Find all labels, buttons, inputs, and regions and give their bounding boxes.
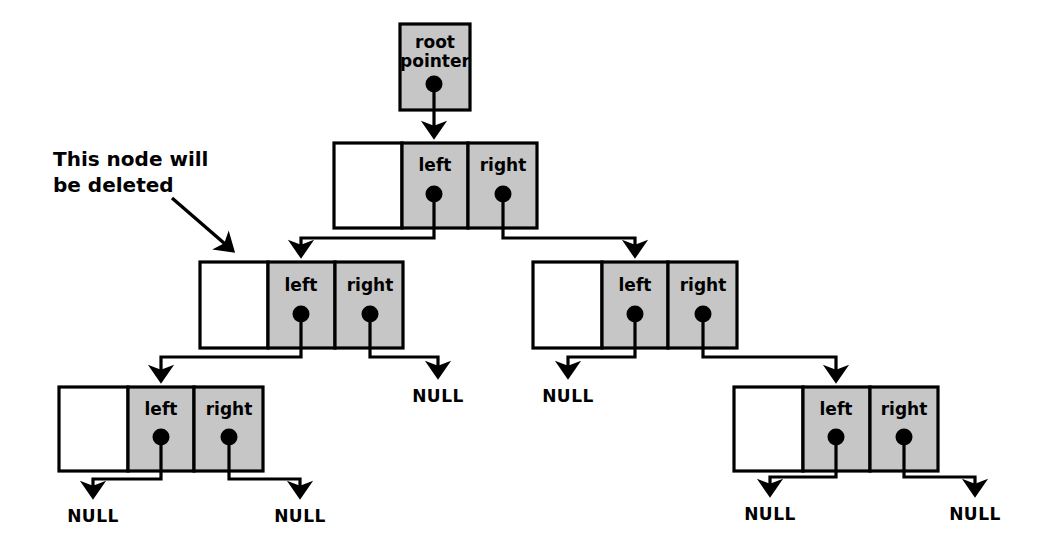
left-grandchild-left-label: left (145, 399, 178, 419)
diagram-canvas: root pointer left right left right (0, 0, 1043, 552)
left-child-data-cell (200, 262, 268, 348)
left-child-right-label: right (347, 275, 394, 295)
right-child-data-cell (533, 262, 602, 348)
annotation-arrow (172, 198, 232, 250)
root-pointer-label-line2: pointer (400, 51, 470, 71)
annotation-callout: This node will be deleted (53, 147, 232, 250)
right-grandchild-left-label: left (820, 399, 853, 419)
binary-tree-diagram: root pointer left right left right (0, 0, 1043, 552)
left-grandchild-right-label: right (206, 399, 253, 419)
right-grandchild-data-cell (734, 387, 803, 471)
root-node-left-label: left (419, 155, 452, 175)
root-node-right-label: right (480, 155, 527, 175)
annotation-line2: be deleted (53, 173, 174, 197)
right-grandchild-right-label: right (881, 399, 928, 419)
null-left-grandchild-right: NULL (274, 506, 326, 526)
left-grandchild-data-cell (59, 387, 128, 471)
null-left-child-right: NULL (412, 386, 464, 406)
null-right-grandchild-left: NULL (744, 504, 796, 524)
null-right-child-left: NULL (542, 386, 594, 406)
root-pointer-label-line1: root (415, 32, 455, 52)
null-right-grandchild-right: NULL (949, 504, 1001, 524)
right-child-left-label: left (619, 275, 652, 295)
left-child-left-label: left (285, 275, 318, 295)
null-left-grandchild-left: NULL (67, 506, 119, 526)
right-child-right-label: right (680, 275, 727, 295)
annotation-line1: This node will (53, 147, 208, 171)
root-node-data-cell (334, 143, 402, 228)
